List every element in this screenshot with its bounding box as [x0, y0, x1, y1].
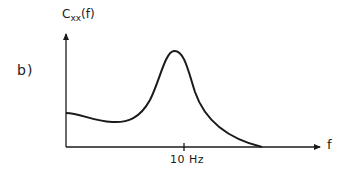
y-label-subscript: xx	[70, 13, 81, 23]
panel-label: b)	[17, 62, 33, 78]
y-label-arg: (f)	[81, 7, 95, 21]
plot-canvas	[0, 0, 346, 173]
x-tick-label: 10 Hz	[170, 153, 204, 166]
y-axis-label: Cxx(f)	[62, 7, 95, 23]
x-axis-label: f	[327, 137, 332, 152]
spectrum-curve	[66, 51, 262, 147]
spectrum-figure: b) Cxx(f) f 10 Hz	[0, 0, 346, 173]
